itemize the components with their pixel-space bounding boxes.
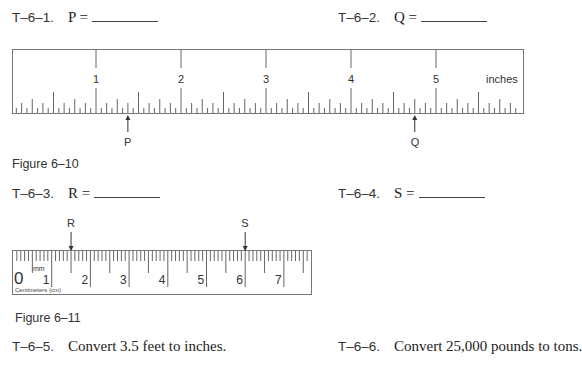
inch-label: 1 (93, 73, 99, 85)
marker-label-r: R (67, 217, 75, 229)
inch-ruler: 12345 inches PQ (0, 0, 562, 150)
inch-label: 4 (348, 73, 354, 85)
question-t-6-5: T–6–5.Convert 3.5 feet to inches. (12, 338, 226, 355)
figure-caption-6-11: Figure 6–11 (15, 311, 81, 325)
cm-label: 3 (120, 273, 127, 287)
cm-unit-label: Centimeters (cm) (15, 287, 61, 293)
question-number: T–6–5. (12, 339, 54, 354)
answer-blank-r[interactable] (94, 185, 160, 198)
inch-label: 5 (433, 73, 439, 85)
question-text: R = (68, 185, 90, 201)
cm-ruler: 1234567 0 mm Centimeters (cm) RS (0, 210, 330, 300)
question-text: Convert 3.5 feet to inches. (68, 338, 226, 354)
cm-label: 1 (43, 273, 50, 287)
mm-label: mm (33, 265, 45, 272)
question-number: T–6–4. (338, 186, 380, 201)
question-t-6-3: T–6–3.R = (12, 185, 160, 202)
cm-label: 7 (275, 273, 282, 287)
inch-label: 2 (178, 73, 184, 85)
marker-label-q: Q (411, 136, 420, 148)
cm-label: 4 (159, 273, 166, 287)
answer-blank-s[interactable] (419, 185, 485, 198)
cm-label: 6 (236, 273, 243, 287)
arrowhead-icon (125, 115, 130, 120)
question-number: T–6–3. (12, 186, 54, 201)
arrowhead-icon (412, 115, 417, 120)
marker-label-s: S (241, 217, 248, 229)
cm-label: 5 (198, 273, 205, 287)
question-t-6-6: T–6–6.Convert 25,000 pounds to tons. (338, 338, 582, 355)
marker-label-p: P (124, 136, 131, 148)
cm-label: 2 (81, 273, 88, 287)
inch-unit-label: inches (486, 73, 518, 85)
inch-label: 3 (263, 73, 269, 85)
question-t-6-4: T–6–4.S = (338, 185, 485, 202)
question-number: T–6–6. (338, 339, 380, 354)
question-text: Convert 25,000 pounds to tons. (394, 338, 582, 354)
figure-caption-6-10: Figure 6–10 (12, 157, 79, 171)
zero-label: 0 (14, 269, 23, 288)
question-text: S = (394, 185, 415, 201)
